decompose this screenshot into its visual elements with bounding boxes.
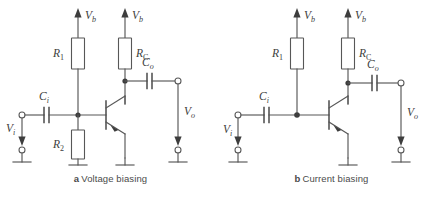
label-co-a: Co xyxy=(142,56,154,71)
capacitor-ci-b xyxy=(264,108,269,123)
caption-a: aVoltage biasing xyxy=(0,173,221,184)
ground-output-a xyxy=(169,153,187,162)
label-r2-a: R2 xyxy=(52,138,64,153)
terminal-input-top-a[interactable] xyxy=(19,112,25,118)
label-vi-b: Vi xyxy=(223,123,232,138)
resistor-rc-b xyxy=(342,38,355,69)
resistor-r1-b xyxy=(291,38,304,69)
voltage-in-indicator-b xyxy=(234,118,241,146)
panel-voltage-biasing: Vb R1 Vb RC Co xyxy=(0,0,221,200)
terminal-output-bottom-a[interactable] xyxy=(175,147,181,153)
ground-r2-a xyxy=(69,159,87,165)
caption-b: bCurrent biasing xyxy=(221,173,442,184)
resistor-r1-a xyxy=(72,38,85,69)
supply-rail-bias-a xyxy=(74,8,81,38)
resistor-rc-a xyxy=(119,38,132,69)
label-ci-a: Ci xyxy=(39,90,49,105)
ground-input-b xyxy=(229,153,247,162)
caption-text-a: Voltage biasing xyxy=(81,173,147,184)
ground-emitter-a xyxy=(116,158,134,165)
label-r1-b: R1 xyxy=(271,47,283,62)
ground-output-b xyxy=(392,153,410,162)
ground-emitter-b xyxy=(339,158,357,165)
vo-arrow-b xyxy=(397,137,404,147)
label-vo-b: Vo xyxy=(407,106,418,121)
label-vb-right-b: Vb xyxy=(355,9,366,24)
capacitor-co-b xyxy=(372,76,377,91)
junction-base-b xyxy=(294,112,300,118)
caption-letter-b: b xyxy=(295,173,301,184)
terminal-output-bottom-b[interactable] xyxy=(398,147,404,153)
caption-text-b: Current biasing xyxy=(302,173,368,184)
supply-rail-bias-b xyxy=(293,8,300,38)
terminal-input-bottom-a[interactable] xyxy=(19,147,25,153)
circuit-diagram-b: Vb R1 Vb RC Co xyxy=(221,0,442,175)
label-r1-a: R1 xyxy=(52,47,64,62)
label-co-b: Co xyxy=(367,58,379,73)
vi-arrow-a xyxy=(18,137,25,147)
voltage-in-indicator-a xyxy=(18,118,25,146)
voltage-out-indicator-a xyxy=(174,84,181,146)
label-vi-a: Vi xyxy=(6,122,15,137)
terminal-input-bottom-b[interactable] xyxy=(235,147,241,153)
voltage-out-indicator-b xyxy=(397,86,404,146)
caption-letter-a: a xyxy=(74,173,79,184)
resistor-r2-a xyxy=(72,130,85,159)
vo-arrow-a xyxy=(174,137,181,147)
capacitor-co-a xyxy=(147,74,152,89)
label-ci-b: Ci xyxy=(259,90,269,105)
terminal-output-top-b[interactable] xyxy=(398,80,404,86)
npn-transistor-b xyxy=(329,96,348,158)
supply-arrow-collector-a xyxy=(121,8,128,18)
label-vo-a: Vo xyxy=(184,105,195,120)
supply-rail-collector-a xyxy=(121,8,128,38)
terminal-output-top-a[interactable] xyxy=(175,78,181,84)
supply-rail-collector-b xyxy=(344,8,351,38)
panel-current-biasing: Vb R1 Vb RC Co xyxy=(221,0,442,200)
label-vb-left-a: Vb xyxy=(85,9,96,24)
supply-arrow-bias-a xyxy=(74,8,81,18)
vi-arrow-b xyxy=(234,137,241,147)
label-vb-left-b: Vb xyxy=(304,9,315,24)
npn-transistor-a xyxy=(106,96,125,158)
supply-arrow-collector-b xyxy=(344,8,351,18)
capacitor-ci-a xyxy=(44,108,49,123)
label-vb-right-a: Vb xyxy=(132,9,143,24)
circuit-diagram-a: Vb R1 Vb RC Co xyxy=(0,0,221,175)
figure-container: Vb R1 Vb RC Co xyxy=(0,0,442,200)
supply-arrow-bias-b xyxy=(293,8,300,18)
ground-input-a xyxy=(13,153,31,162)
terminal-input-top-b[interactable] xyxy=(235,112,241,118)
